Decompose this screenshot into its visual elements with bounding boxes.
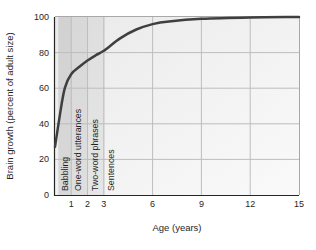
x-axis-title: Age (years) [152,222,201,233]
x-tick-label: 9 [199,199,204,209]
x-tick-label: 1 [69,199,74,209]
milestone-label: Sentences [106,149,116,191]
x-tick-label: 3 [101,199,106,209]
x-tick-label: 15 [294,199,304,209]
milestone-label: One-word utterances [73,108,83,191]
milestone-label: Two-word phrases [90,119,100,191]
y-tick-label: 40 [39,119,49,129]
y-tick-label: 0 [44,190,49,200]
x-tick-label: 6 [150,199,155,209]
x-tick-label: 12 [245,199,255,209]
y-tick-label: 80 [39,48,49,58]
milestone-label: Babbling [60,157,70,191]
y-tick-label: 60 [39,83,49,93]
y-axis-title: Brain growth (percent of adult size) [4,32,15,179]
y-tick-label: 100 [34,12,49,22]
brain-growth-language-chart: 123691215020406080100 BabblingOne-word u… [0,0,316,250]
x-tick-label: 2 [85,199,90,209]
chart-canvas: 123691215020406080100 BabblingOne-word u… [0,0,316,250]
y-tick-label: 20 [39,154,49,164]
